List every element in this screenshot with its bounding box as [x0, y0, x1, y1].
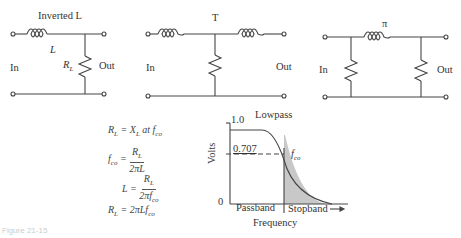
y-axis-label: Volts	[206, 143, 217, 164]
y-tick-0707: 0.707	[233, 143, 257, 154]
inductor-icon	[238, 29, 264, 37]
equation-rl-2plf: RL = 2πLfco	[108, 204, 155, 218]
response-curve	[230, 130, 332, 204]
resistor-icon	[345, 60, 357, 81]
equation-fco: fco = RL2πL	[108, 146, 145, 174]
lowpass-chart	[226, 123, 348, 213]
t-circuit	[146, 29, 286, 98]
inductor-label: L	[50, 44, 56, 55]
stopband-label: Stopband	[288, 203, 328, 214]
inverted-l-circuit	[11, 29, 106, 96]
y-tick-1: 1.0	[231, 114, 244, 125]
resistor-icon	[79, 56, 91, 77]
equation-l: L = RL2πfco	[122, 173, 159, 206]
inductor-icon	[158, 29, 184, 37]
resistor-icon	[209, 55, 221, 76]
inductor-icon	[27, 29, 47, 37]
inductor-icon	[364, 32, 390, 40]
fco-label: fco	[291, 148, 301, 162]
equation-rl-xl: RL = XL at fco	[108, 124, 162, 138]
chart-title: Lowpass	[255, 109, 292, 120]
in-label: In	[10, 62, 19, 73]
arrow-right-icon	[340, 207, 344, 211]
resistor-label: RL	[63, 59, 73, 73]
y-tick-0: 0	[218, 196, 223, 207]
passband-label: Passband	[236, 202, 275, 213]
x-axis-label: Frequency	[253, 217, 297, 228]
circuit-title-pi: π	[382, 18, 387, 29]
pi-circuit	[323, 32, 448, 99]
circuit-title-t: T	[212, 12, 218, 23]
figure-caption: Figure 21-15	[2, 226, 47, 235]
circuit-title-inverted-l: Inverted L	[38, 10, 82, 21]
in-label: In	[319, 64, 328, 75]
stopband-shading	[284, 135, 335, 204]
out-label: Out	[99, 60, 115, 71]
in-label: In	[146, 62, 155, 73]
out-label: Out	[437, 64, 453, 75]
resistor-icon	[415, 60, 427, 81]
out-label: Out	[276, 61, 292, 72]
